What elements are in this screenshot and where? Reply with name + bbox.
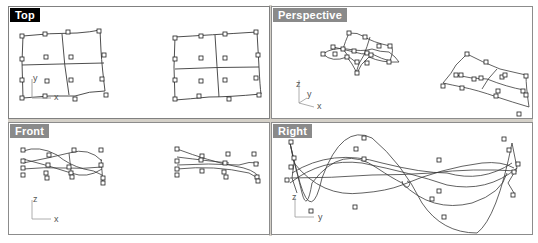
viewport-front[interactable]: z x Front: [8, 122, 270, 235]
surface-left[interactable]: [20, 29, 108, 101]
axis-label-v: z: [292, 192, 297, 202]
axis-label-v: z: [33, 194, 38, 204]
viewport-right-canvas[interactable]: z y: [272, 123, 532, 234]
axis-icon: [295, 198, 314, 217]
axis-label-y: y: [307, 89, 312, 99]
axis-label-v: y: [33, 73, 38, 83]
axis-label-h: x: [54, 92, 59, 102]
viewport-title-perspective[interactable]: Perspective: [273, 8, 347, 22]
viewport-front-canvas[interactable]: z x: [9, 123, 269, 234]
rhino-workspace: y x Top: [0, 0, 538, 243]
axis-label-h: x: [54, 214, 59, 224]
axis-label-x: x: [317, 101, 322, 111]
axis-label-h: y: [318, 212, 323, 222]
viewport-title-right[interactable]: Right: [273, 124, 312, 138]
viewport-perspective[interactable]: z y x Perspective: [271, 6, 533, 119]
surface-right-front[interactable]: [175, 147, 260, 183]
viewport-top-canvas[interactable]: y x: [9, 7, 269, 118]
viewport-top[interactable]: y x Top: [8, 6, 270, 119]
viewport-perspective-canvas[interactable]: z y x: [272, 7, 532, 118]
viewport-title-front[interactable]: Front: [10, 124, 49, 138]
viewport-title-top[interactable]: Top: [10, 8, 40, 22]
axis-label-z: z: [296, 79, 301, 89]
surface-left-front[interactable]: [21, 148, 105, 185]
surface-right[interactable]: [173, 30, 261, 101]
surface-right-perspective[interactable]: [441, 52, 529, 116]
surface-left-perspective[interactable]: [321, 31, 399, 75]
viewport-right[interactable]: z y Right: [271, 122, 533, 235]
